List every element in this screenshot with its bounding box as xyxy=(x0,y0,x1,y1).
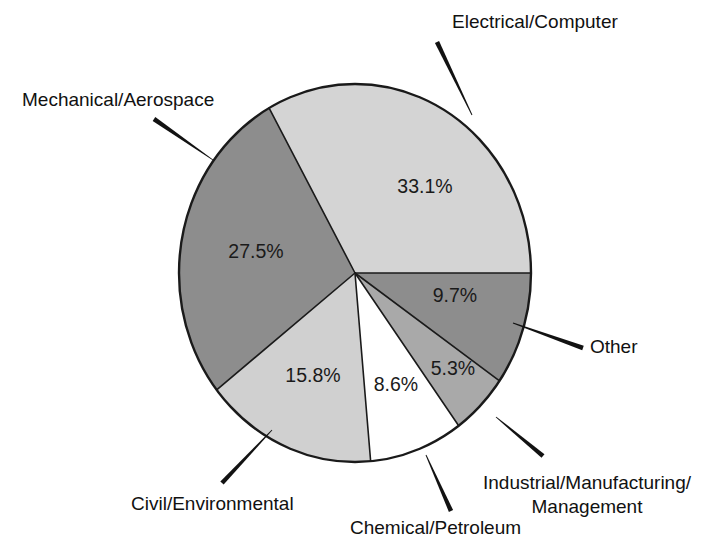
callout-label-3[interactable]: Chemical/Petroleum xyxy=(350,517,521,538)
callout-label-line: Civil/Environmental xyxy=(131,493,294,514)
slice-value-label-3: 8.6% xyxy=(374,373,418,395)
callout-label-line: Electrical/Computer xyxy=(452,11,618,32)
callout-label-line: Mechanical/Aerospace xyxy=(22,89,214,110)
callout-label-2[interactable]: Civil/Environmental xyxy=(131,493,294,514)
slice-value-label-0: 33.1% xyxy=(397,175,452,197)
slice-value-label-4: 5.3% xyxy=(431,357,475,379)
slice-value-label-2: 15.8% xyxy=(285,364,340,386)
callout-label-line: Industrial/Manufacturing/ xyxy=(483,472,692,493)
callout-label-5[interactable]: Other xyxy=(590,336,638,357)
pie-chart-figure: 33.1%27.5%15.8%8.6%5.3%9.7% Electrical/C… xyxy=(0,0,704,538)
callout-label-line: Management xyxy=(532,496,644,517)
callout-label-1[interactable]: Mechanical/Aerospace xyxy=(22,89,214,110)
callout-label-line: Other xyxy=(590,336,638,357)
slice-value-label-1: 27.5% xyxy=(228,240,283,262)
slice-value-label-5: 9.7% xyxy=(433,284,477,306)
callout-label-0[interactable]: Electrical/Computer xyxy=(452,11,618,32)
callout-label-line: Chemical/Petroleum xyxy=(350,517,521,538)
pie-chart-canvas: 33.1%27.5%15.8%8.6%5.3%9.7% Electrical/C… xyxy=(0,0,704,538)
